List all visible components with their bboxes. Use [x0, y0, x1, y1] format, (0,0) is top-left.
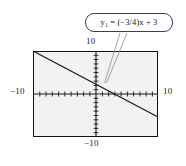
- leader-line-left: [105, 33, 121, 83]
- axis-label-left: −10: [10, 86, 25, 96]
- equation-body: = (−3/4)x + 3: [108, 17, 157, 27]
- equation-label: y1 = (−3/4)x + 3: [101, 17, 158, 28]
- graph-figure: y1 = (−3/4)x + 3 10 −10 −10 10: [0, 0, 186, 166]
- leader-line-right: [107, 33, 128, 83]
- axis-label-top: 10: [86, 36, 95, 46]
- axis-label-right: 10: [163, 86, 172, 96]
- equation-callout: y1 = (−3/4)x + 3: [85, 13, 173, 32]
- axis-label-bottom: −10: [84, 138, 99, 148]
